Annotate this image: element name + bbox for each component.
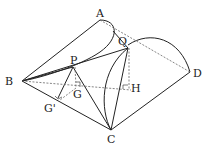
edge-QC (111, 48, 128, 130)
edge-PG-prime (58, 67, 73, 98)
label-B: B (5, 76, 13, 87)
right-angle-H (123, 85, 128, 89)
label-D: D (193, 68, 202, 79)
geometry-diagram: A Q P B D G H G' C (0, 0, 205, 148)
edge-BC (22, 81, 111, 130)
label-P: P (70, 55, 77, 66)
edge-CD (111, 72, 190, 130)
arc-Q-to-C (104, 48, 128, 130)
edge-BA (22, 20, 100, 81)
arc-Q-to-D (128, 38, 190, 72)
label-G-prime: G' (44, 103, 56, 114)
arc-A-to-B (22, 20, 114, 81)
right-angle-G (76, 82, 80, 87)
label-Q: Q (118, 36, 127, 47)
label-G: G (73, 89, 82, 100)
label-A: A (96, 8, 104, 19)
diagram-svg (0, 0, 205, 148)
label-C: C (107, 134, 115, 145)
label-H: H (131, 83, 141, 94)
